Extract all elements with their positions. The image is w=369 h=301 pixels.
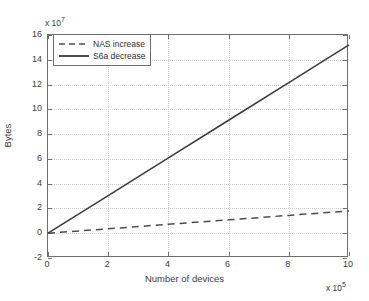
y-tick-label: 6 [16,153,42,163]
x-tick-label: 6 [225,259,230,269]
y-tick-label: 4 [16,178,42,188]
legend-swatch-solid-line [58,51,90,61]
legend-swatch-dashed-line [58,39,90,49]
legend-item-s6a-decrease: S6a decrease [54,50,150,62]
y-axis-tick [48,258,52,259]
y-axis-title: Bytes [2,116,13,156]
x-tick-label: 8 [285,259,290,269]
x-tick-label: 4 [165,259,170,269]
series-line-s6a-decrease [48,45,349,233]
y-axis-multiplier: x 107 [45,16,65,28]
y-tick-label: 10 [16,103,42,113]
matlab-figure: x 107 x 105 Bytes Number of devices 0246… [0,0,369,301]
data-series-layer [48,35,349,258]
y-tick-label: 14 [16,54,42,64]
series-line-nas-increase [48,211,349,233]
x-tick-label: 10 [343,259,353,269]
y-tick-label: 2 [16,202,42,212]
x-axis-title: Number of devices [0,273,369,284]
x-axis-tick [349,252,350,256]
y-tick-label: 8 [16,128,42,138]
legend-label-s6a-decrease: S6a decrease [90,51,145,61]
y-axis-multiplier-prefix: x 10 [45,18,61,28]
y-tick-label: 12 [16,79,42,89]
legend: NAS increase S6a decrease [53,34,151,66]
y-tick-label: 16 [16,29,42,39]
x-tick-label: 0 [44,259,49,269]
y-tick-label: -2 [16,252,42,262]
x-tick-label: 2 [105,259,110,269]
legend-item-nas-increase: NAS increase [54,38,150,50]
y-tick-label: 0 [16,227,42,237]
y-axis-tick [343,258,347,259]
y-axis-multiplier-exponent: 7 [61,16,65,23]
legend-label-nas-increase: NAS increase [90,39,145,49]
x-axis-tick [349,35,350,39]
x-axis-multiplier-prefix: x 10 [326,283,342,293]
plot-area: NAS increase S6a decrease [47,34,348,257]
